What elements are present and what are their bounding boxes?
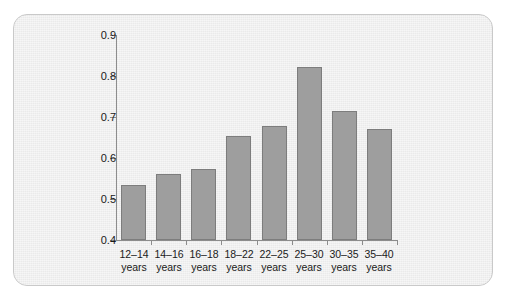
bar xyxy=(156,174,181,240)
bar-chart: 0.90.80.70.60.50.4 12–14years14–16years1… xyxy=(0,0,505,304)
y-axis-tick-label: 0.8 xyxy=(90,71,116,82)
y-axis-tick-label-wrap: 0.9 xyxy=(78,35,116,36)
y-axis-tick-label-wrap: 0.6 xyxy=(78,158,116,159)
bar xyxy=(191,169,216,240)
y-axis-line xyxy=(116,35,117,241)
bar xyxy=(367,129,392,240)
x-axis-tick xyxy=(327,240,328,245)
y-axis-tick-label: 0.4 xyxy=(90,235,116,246)
y-axis-tick-label-wrap: 0.8 xyxy=(78,76,116,77)
x-axis-label-range: 35–40 xyxy=(357,248,401,261)
y-axis-tick-label-wrap: 0.4 xyxy=(78,240,116,241)
y-axis-tick-label-wrap: 0.5 xyxy=(78,199,116,200)
x-axis-tick xyxy=(186,240,187,245)
y-axis-tick-label: 0.7 xyxy=(90,112,116,123)
bar xyxy=(297,67,322,240)
x-axis-tick xyxy=(397,240,398,245)
x-axis-tick xyxy=(257,240,258,245)
bar xyxy=(332,111,357,240)
y-axis-tick-label: 0.6 xyxy=(90,153,116,164)
x-axis-tick xyxy=(221,240,222,245)
bar xyxy=(226,136,251,240)
x-axis-label: 35–40years xyxy=(357,248,401,273)
x-axis-tick xyxy=(362,240,363,245)
x-axis-tick xyxy=(151,240,152,245)
y-axis-tick-label-wrap: 0.7 xyxy=(78,117,116,118)
bar xyxy=(262,126,287,240)
y-axis-tick-label: 0.5 xyxy=(90,194,116,205)
x-axis-label-unit: years xyxy=(357,261,401,274)
bar xyxy=(121,185,146,240)
x-axis-tick xyxy=(292,240,293,245)
y-axis-tick-label: 0.9 xyxy=(90,30,116,41)
